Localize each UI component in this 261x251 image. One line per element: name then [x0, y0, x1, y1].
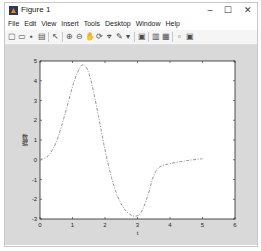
y-tick-label: -1	[32, 177, 38, 183]
x-tick-label: 4	[168, 222, 172, 228]
print-icon[interactable]: ▤	[37, 32, 46, 41]
open-file-icon[interactable]: ▭	[17, 32, 26, 41]
menu-desktop[interactable]: Desktop	[105, 18, 131, 29]
menu-tools[interactable]: Tools	[84, 18, 100, 29]
new-figure-icon[interactable]: ▢	[7, 32, 16, 41]
show-plot-tools-icon[interactable]: ▣	[185, 32, 194, 41]
pan-icon[interactable]: ✋	[85, 32, 94, 41]
toolbar-separator	[134, 32, 135, 42]
toolbar-separator	[148, 32, 149, 42]
y-axis-label: 数据	[21, 133, 27, 147]
menu-window[interactable]: Window	[136, 18, 161, 29]
brush-dropdown-icon[interactable]: ▾	[123, 32, 132, 41]
menu-insert[interactable]: Insert	[61, 18, 79, 29]
y-tick-label: 0	[34, 157, 38, 163]
figure-toolbar: ▢ ▭ ▪ ▤ ↖ ⊕ ⊖ ✋ ⟳ ⌖ ✎ ▾ ▣ ▥ ▦ ▫ ▣	[5, 30, 257, 45]
menu-view[interactable]: View	[41, 18, 56, 29]
menu-file[interactable]: File	[8, 18, 19, 29]
x-tick-label: 1	[71, 222, 75, 228]
menu-edit[interactable]: Edit	[24, 18, 36, 29]
title-bar[interactable]: Figure 1 – ☐ ✕	[5, 3, 257, 18]
insert-colorbar-icon[interactable]: ▥	[151, 32, 160, 41]
plot-axes[interactable]: 0123456-3-2-1012345t数据	[5, 45, 257, 245]
y-tick-label: 5	[34, 58, 38, 64]
edit-plot-arrow-icon[interactable]: ↖	[51, 32, 60, 41]
matlab-logo-icon	[9, 6, 18, 15]
close-button[interactable]: ✕	[239, 4, 257, 16]
toolbar-separator	[172, 32, 173, 42]
rotate-3d-icon[interactable]: ⟳	[95, 32, 104, 41]
toolbar-separator	[62, 32, 63, 42]
figure-canvas: 0123456-3-2-1012345t数据	[5, 45, 257, 245]
link-plot-icon[interactable]: ▣	[137, 32, 146, 41]
toolbar-separator	[48, 32, 49, 42]
y-tick-label: 3	[34, 98, 38, 104]
x-tick-label: 5	[201, 222, 205, 228]
x-tick-label: 6	[233, 222, 237, 228]
y-tick-label: 4	[34, 78, 38, 84]
x-tick-label: 2	[103, 222, 107, 228]
figure-window: Figure 1 – ☐ ✕ File Edit View Insert Too…	[4, 2, 258, 247]
maximize-button[interactable]: ☐	[219, 4, 237, 16]
minimize-button[interactable]: –	[201, 4, 219, 16]
insert-legend-icon[interactable]: ▦	[161, 32, 170, 41]
menu-help[interactable]: Help	[166, 18, 180, 29]
y-tick-label: -3	[32, 216, 38, 222]
hide-plot-tools-icon[interactable]: ▫	[175, 32, 184, 41]
y-tick-label: -2	[32, 196, 38, 202]
x-tick-label: 0	[38, 222, 42, 228]
zoom-in-icon[interactable]: ⊕	[65, 32, 74, 41]
axes-box	[40, 61, 235, 219]
window-title: Figure 1	[21, 5, 50, 14]
x-axis-label: t	[137, 230, 139, 236]
data-cursor-icon[interactable]: ⌖	[105, 32, 114, 41]
save-icon[interactable]: ▪	[27, 32, 36, 41]
x-tick-label: 3	[136, 222, 140, 228]
menu-bar: File Edit View Insert Tools Desktop Wind…	[5, 18, 257, 29]
y-tick-label: 1	[34, 137, 38, 143]
y-tick-label: 2	[34, 117, 38, 123]
zoom-out-icon[interactable]: ⊖	[75, 32, 84, 41]
